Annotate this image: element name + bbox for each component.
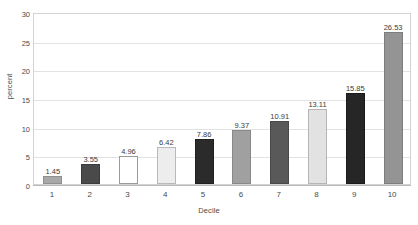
bar-value-label: 4.96 xyxy=(121,147,136,156)
bar-value-label: 1.45 xyxy=(46,167,61,176)
bar xyxy=(43,176,62,184)
bar xyxy=(119,156,138,184)
x-tick-label: 9 xyxy=(352,190,356,199)
bar-value-label: 26.53 xyxy=(384,23,403,32)
bar-value-label: 6.42 xyxy=(159,138,174,147)
bar xyxy=(384,32,403,184)
x-tick-label: 6 xyxy=(239,190,243,199)
x-axis-label: Decile xyxy=(0,206,418,215)
y-tick-label: 25 xyxy=(8,38,30,47)
x-tick-label: 8 xyxy=(314,190,318,199)
bar-value-label: 3.55 xyxy=(83,155,98,164)
bar xyxy=(195,139,214,184)
x-tick-label: 4 xyxy=(163,190,167,199)
bar xyxy=(346,93,365,184)
bar-chart: percent 051015202530 1.453.554.966.427.8… xyxy=(0,0,418,225)
gridline xyxy=(34,71,410,72)
x-tick-label: 7 xyxy=(276,190,280,199)
x-tick-label: 1 xyxy=(50,190,54,199)
x-tick-label: 3 xyxy=(125,190,129,199)
gridline xyxy=(34,43,410,44)
y-tick-label: 0 xyxy=(8,182,30,191)
bar xyxy=(270,121,289,184)
x-tick-label: 2 xyxy=(87,190,91,199)
bar-value-label: 9.37 xyxy=(235,121,250,130)
y-tick-label: 5 xyxy=(8,153,30,162)
y-tick-label: 30 xyxy=(8,10,30,19)
x-axis-line xyxy=(33,185,411,186)
y-tick-label: 20 xyxy=(8,67,30,76)
bar-value-label: 10.91 xyxy=(270,112,289,121)
y-tick-label: 15 xyxy=(8,96,30,105)
y-tick-label: 10 xyxy=(8,124,30,133)
bar-value-label: 15.85 xyxy=(346,84,365,93)
bar xyxy=(308,109,327,184)
x-tick-label: 5 xyxy=(201,190,205,199)
bar-value-label: 7.86 xyxy=(197,130,212,139)
plot-area: 051015202530 1.453.554.966.427.869.3710.… xyxy=(33,13,411,185)
bar xyxy=(81,164,100,184)
y-axis-label: percent xyxy=(5,57,14,117)
bar xyxy=(157,147,176,184)
x-tick-label: 10 xyxy=(388,190,397,199)
bar-value-label: 13.11 xyxy=(308,100,326,109)
bar xyxy=(232,130,251,184)
